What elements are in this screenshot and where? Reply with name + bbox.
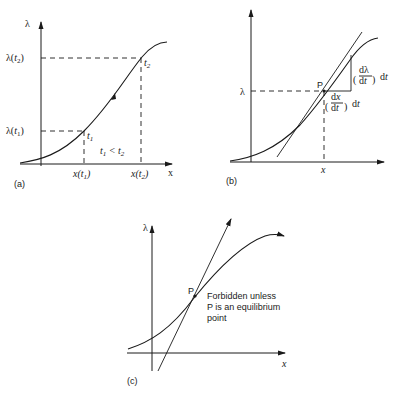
svg-text:dt: dt bbox=[380, 71, 388, 82]
svg-text:): ) bbox=[344, 101, 347, 113]
annotation-t1-lt-t2: t1 < t2 bbox=[100, 145, 125, 158]
svg-text:dt: dt bbox=[359, 75, 367, 86]
svg-text:dt: dt bbox=[331, 102, 339, 113]
annotation-line-1: Forbidden unless bbox=[207, 291, 277, 301]
point-label-p-b: P bbox=[317, 80, 323, 90]
increment-label-dx: ( dx dt ) dt bbox=[325, 91, 360, 113]
svg-text:dx: dx bbox=[331, 91, 341, 102]
tangent-line-b bbox=[277, 32, 362, 157]
panel-a: λ x λ(t2) λ(t1) x(t1) x(t2) t2 t1 t1 < t… bbox=[6, 18, 173, 189]
y-tick-lambda-t2: λ(t2) bbox=[6, 52, 24, 65]
y-axis-label-b: λ bbox=[240, 86, 245, 97]
x-axis-label-b: x bbox=[320, 164, 326, 175]
x-tick-x-t2: x(t2) bbox=[130, 168, 149, 181]
caption-b: (b) bbox=[226, 176, 237, 186]
annotation-line-2: P is an equilibrium bbox=[207, 302, 280, 312]
svg-text:): ) bbox=[372, 74, 375, 86]
panel-b: λ x P ( dλ dt ) dt ( dx dt ) dt (b) bbox=[226, 10, 388, 186]
svg-text:(: ( bbox=[325, 101, 329, 113]
y-axis-label-a: λ bbox=[25, 18, 30, 29]
point-label-t1: t1 bbox=[87, 130, 93, 143]
caption-c: (c) bbox=[127, 376, 138, 386]
svg-text:dt: dt bbox=[352, 98, 360, 109]
x-tick-x-t1: x(t1) bbox=[72, 168, 91, 181]
point-label-p-c: P bbox=[188, 286, 194, 296]
y-tick-lambda-t1: λ(t1) bbox=[6, 125, 24, 138]
x-axis-label-c: x bbox=[281, 358, 287, 369]
figure-canvas: λ x λ(t2) λ(t1) x(t1) x(t2) t2 t1 t1 < t… bbox=[0, 0, 401, 404]
point-label-t2: t2 bbox=[144, 57, 151, 70]
increment-label-dlambda: ( dλ dt ) dt bbox=[353, 64, 388, 86]
svg-text:(: ( bbox=[353, 74, 357, 86]
caption-a: (a) bbox=[14, 179, 25, 189]
annotation-line-3: point bbox=[207, 313, 227, 323]
x-axis-label-a: x bbox=[168, 167, 173, 178]
panel-c: λ x P Forbidden unless P is an equilibri… bbox=[127, 219, 287, 386]
y-axis-label-c: λ bbox=[143, 222, 148, 233]
svg-text:dλ: dλ bbox=[359, 64, 369, 75]
